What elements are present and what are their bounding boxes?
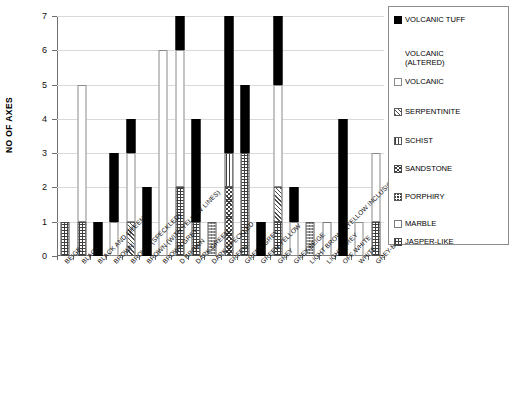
- legend-swatch-sand: [394, 165, 402, 173]
- bar-segment-jasper[interactable]: [241, 153, 250, 256]
- bar-slot[interactable]: [368, 16, 384, 256]
- legend-swatch-jasper: [394, 238, 402, 246]
- legend-label: SANDSTONE: [405, 164, 452, 173]
- legend-swatch-volc: [394, 78, 402, 86]
- bar-slot[interactable]: [204, 16, 220, 256]
- y-axis: NO OF AXES 01234567: [0, 16, 57, 256]
- legend-item-schist[interactable]: SCHIST: [394, 136, 433, 145]
- bar-segment-tuff[interactable]: [273, 16, 282, 85]
- legend-item-jasper[interactable]: JASPER-LIKE: [394, 237, 454, 246]
- chart-root: NO OF AXES 01234567 BEIGEBLACKBLACK AND …: [0, 0, 515, 395]
- legend-label: SERPENTINITE: [405, 107, 460, 116]
- legend-swatch-porph: [394, 193, 402, 201]
- legend-label: VOLCANIC: [405, 77, 444, 86]
- legend-item-volcalt[interactable]: VOLCANIC (ALTERED): [394, 49, 445, 67]
- y-tick-label: 6: [42, 45, 47, 55]
- stacked-bar[interactable]: [273, 16, 282, 256]
- legend-label: SCHIST: [405, 136, 433, 145]
- legend-item-tuff[interactable]: VOLCANIC TUFF: [394, 15, 465, 24]
- bar-segment-volc[interactable]: [273, 85, 282, 188]
- legend-label: VOLCANIC (ALTERED): [405, 49, 445, 67]
- bar-slot[interactable]: [221, 16, 237, 256]
- legend-swatch-serp: [394, 108, 402, 116]
- stacked-bar[interactable]: [61, 187, 70, 256]
- legend-swatch-marble: [394, 220, 402, 228]
- bar-segment-volc[interactable]: [175, 50, 184, 187]
- y-tick-label: 3: [42, 148, 47, 158]
- bar-slot[interactable]: [73, 16, 89, 256]
- y-tick-label: 2: [42, 182, 47, 192]
- legend-item-marble[interactable]: MARBLE: [394, 219, 436, 228]
- y-axis-title: NO OF AXES: [4, 60, 14, 190]
- bar-segment-tuff[interactable]: [110, 153, 119, 222]
- y-tick-label: 4: [42, 114, 47, 124]
- bar-slot[interactable]: [253, 16, 269, 256]
- legend-item-volc[interactable]: VOLCANIC: [394, 77, 444, 86]
- bar-segment-volc[interactable]: [77, 85, 86, 222]
- y-tick-label: 7: [42, 11, 47, 21]
- bar-segment-volc[interactable]: [126, 153, 135, 222]
- bar-slot[interactable]: [90, 16, 106, 256]
- bar-segment-tuff[interactable]: [241, 85, 250, 154]
- x-axis-labels: BEIGEBLACKBLACK AND GREENBROWNBROWN (SPE…: [0, 258, 400, 388]
- bar-slot[interactable]: [270, 16, 286, 256]
- legend-item-porph[interactable]: PORPHIRY: [394, 192, 445, 201]
- bar-segment-tuff[interactable]: [290, 187, 299, 221]
- legend-label: PORPHIRY: [405, 192, 445, 201]
- bar-group: [57, 16, 384, 256]
- legend-label: JASPER-LIKE: [405, 237, 454, 246]
- bar-slot[interactable]: [302, 16, 318, 256]
- bar-slot[interactable]: [286, 16, 302, 256]
- legend-label: VOLCANIC TUFF: [405, 15, 465, 24]
- bar-segment-volcalt[interactable]: [61, 187, 70, 221]
- bar-slot[interactable]: [57, 16, 73, 256]
- bar-segment-jasper[interactable]: [61, 222, 70, 256]
- y-tick-label: 5: [42, 80, 47, 90]
- y-tick-label: 1: [42, 217, 47, 227]
- legend-swatch-tuff: [394, 16, 402, 24]
- stacked-bar[interactable]: [224, 16, 233, 256]
- stacked-bar[interactable]: [77, 85, 86, 256]
- legend-swatch-schist: [394, 137, 402, 145]
- legend-label: MARBLE: [405, 219, 436, 228]
- legend: VOLCANIC TUFFVOLCANIC (ALTERED)VOLCANICS…: [388, 6, 509, 245]
- bar-segment-tuff[interactable]: [175, 16, 184, 50]
- bar-segment-serp[interactable]: [273, 187, 282, 221]
- bar-slot[interactable]: [319, 16, 335, 256]
- legend-item-sand[interactable]: SANDSTONE: [394, 164, 452, 173]
- bar-slot[interactable]: [106, 16, 122, 256]
- bar-segment-tuff[interactable]: [224, 16, 233, 153]
- legend-item-serp[interactable]: SERPENTINITE: [394, 107, 460, 116]
- plot-area: [57, 16, 384, 256]
- bar-segment-schist[interactable]: [224, 153, 233, 187]
- legend-swatch-volcalt: [394, 50, 402, 58]
- bar-segment-tuff[interactable]: [126, 119, 135, 153]
